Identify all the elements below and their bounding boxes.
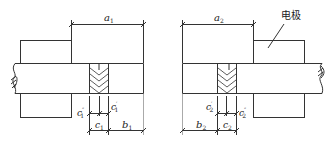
right-rod	[183, 64, 323, 94]
right-electrode-lower	[254, 94, 305, 118]
right-weld-hatch	[218, 68, 236, 93]
right-label-c-double-prime: c″2	[239, 106, 247, 119]
right-figure	[183, 20, 325, 135]
left-rod	[15, 64, 144, 94]
electrode-label: 电极	[281, 9, 301, 21]
left-label-c-prime: c′1	[111, 100, 118, 113]
right-label-a: a2	[214, 12, 224, 24]
right-label-b: b2	[196, 119, 206, 131]
left-electrode-lower	[21, 94, 72, 118]
left-label-c-double-prime: c″1	[77, 106, 85, 119]
left-weld-hatch	[90, 68, 108, 93]
right-label-c-prime: c′2	[206, 100, 213, 113]
left-label-c: c1	[95, 120, 104, 131]
right-weld-zone	[218, 64, 237, 94]
left-label-b: b1	[122, 119, 132, 131]
right-label-c: c2	[223, 120, 232, 131]
left-electrode-upper	[21, 41, 72, 64]
right-electrode-upper	[254, 41, 305, 64]
electrode-leader-line	[268, 24, 284, 48]
left-label-a: a1	[104, 12, 114, 24]
welding-diagram: a1 c″1 c′1 c1 b1	[0, 0, 333, 151]
